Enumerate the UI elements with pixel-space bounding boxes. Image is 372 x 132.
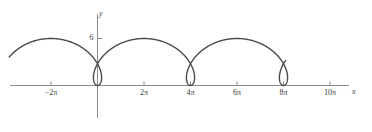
x-axis-label: x [352, 88, 356, 96]
x-tick-label: 10π [310, 89, 350, 97]
trochoid-figure: y x −2π2π4π6π8π10π 6 [0, 0, 372, 132]
trochoid-curve [9, 39, 287, 86]
axes-group [10, 14, 349, 118]
x-tick-label: 8π [263, 89, 303, 97]
plot-canvas [0, 0, 372, 132]
y-axis-label: y [99, 10, 103, 18]
y-tick-label: 6 [76, 34, 94, 42]
x-tick-label: 6π [217, 89, 257, 97]
x-tick-label: 2π [124, 89, 164, 97]
x-tick-label: 4π [171, 89, 211, 97]
x-tick-label: −2π [31, 89, 71, 97]
